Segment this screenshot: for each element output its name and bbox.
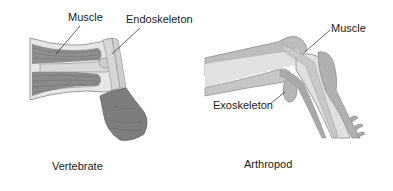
vertebrate-caption: Vertebrate — [52, 161, 103, 172]
arthropod-leg-illustration — [205, 36, 365, 138]
vertebrate-muscle-label: Muscle — [68, 12, 103, 23]
arthropod-muscle-label: Muscle — [331, 23, 366, 34]
arthropod-muscle-leader-line — [305, 30, 330, 52]
endoskeleton-label: Endoskeleton — [126, 14, 193, 25]
arthropod-caption: Arthropod — [244, 159, 292, 170]
exoskeleton-label: Exoskeleton — [213, 100, 273, 111]
vertebrate-arm-illustration — [30, 38, 147, 140]
